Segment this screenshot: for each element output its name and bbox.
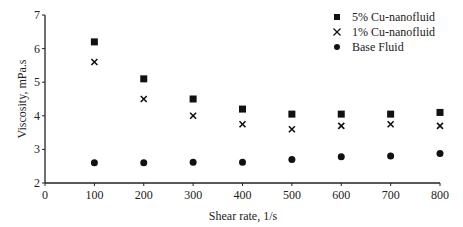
data-point bbox=[288, 111, 295, 118]
data-point bbox=[91, 59, 97, 65]
data-point bbox=[437, 123, 443, 129]
data-point bbox=[338, 153, 345, 160]
data-point bbox=[437, 109, 444, 116]
data-point bbox=[437, 150, 444, 157]
data-point bbox=[388, 121, 394, 127]
x-tick-label: 100 bbox=[85, 188, 103, 202]
y-tick-label: 6 bbox=[34, 42, 40, 56]
data-point bbox=[190, 159, 197, 166]
data-point bbox=[239, 106, 246, 113]
y-tick-label: 5 bbox=[34, 75, 40, 89]
data-point bbox=[91, 38, 98, 45]
legend-label: 5% Cu-nanofluid bbox=[352, 10, 435, 24]
x-tick-label: 700 bbox=[382, 188, 400, 202]
x-tick-label: 800 bbox=[431, 188, 449, 202]
legend-label: Base Fluid bbox=[352, 40, 404, 54]
y-tick-label: 7 bbox=[34, 8, 40, 22]
viscosity-scatter-chart: 2345670100200300400500600700800 5% Cu-na… bbox=[0, 0, 463, 227]
x-tick-label: 500 bbox=[283, 188, 301, 202]
y-tick-label: 4 bbox=[34, 109, 40, 123]
data-point bbox=[239, 159, 246, 166]
legend: 5% Cu-nanofluid1% Cu-nanofluidBase Fluid bbox=[334, 10, 436, 54]
legend-marker-square-icon bbox=[334, 14, 340, 20]
y-tick-label: 3 bbox=[34, 142, 40, 156]
x-tick-label: 600 bbox=[332, 188, 350, 202]
data-point bbox=[288, 156, 295, 163]
y-tick-label: 2 bbox=[34, 176, 40, 190]
data-point bbox=[240, 121, 246, 127]
data-point bbox=[91, 159, 98, 166]
data-point bbox=[338, 123, 344, 129]
data-point bbox=[140, 159, 147, 166]
data-point bbox=[141, 96, 147, 102]
data-point bbox=[387, 153, 394, 160]
x-tick-label: 300 bbox=[184, 188, 202, 202]
x-axis-title: Shear rate, 1/s bbox=[209, 209, 278, 223]
data-point bbox=[190, 96, 197, 103]
data-points bbox=[91, 38, 444, 166]
data-point bbox=[387, 111, 394, 118]
legend-label: 1% Cu-nanofluid bbox=[352, 25, 435, 39]
data-point bbox=[190, 113, 196, 119]
data-point bbox=[140, 75, 147, 82]
y-axis-title: Viscosity, mPa.s bbox=[15, 59, 29, 138]
x-tick-label: 0 bbox=[42, 188, 48, 202]
data-point bbox=[289, 126, 295, 132]
data-point bbox=[338, 111, 345, 118]
x-tick-label: 400 bbox=[234, 188, 252, 202]
legend-marker-circle-icon bbox=[334, 44, 340, 50]
x-tick-label: 200 bbox=[135, 188, 153, 202]
legend-marker-x-icon bbox=[334, 29, 341, 36]
